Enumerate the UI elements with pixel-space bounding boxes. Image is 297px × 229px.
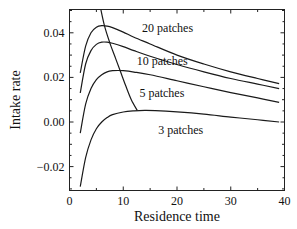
series-label-3-patches: 3 patches <box>158 123 203 137</box>
series-line-optimum-boundary <box>100 6 137 110</box>
series-label-10-patches: 10 patches <box>137 54 188 68</box>
series-label-20-patches: 20 patches <box>142 21 193 35</box>
x-tick-label: 40 <box>279 194 291 208</box>
intake-rate-chart: 010203040−0.020.000.020.04 20 patches10 … <box>0 0 297 229</box>
x-tick-label: 20 <box>171 194 183 208</box>
axis-ticks: 010203040−0.020.000.020.04 <box>37 10 291 208</box>
x-axis-title: Residence time <box>134 209 220 224</box>
x-tick-label: 10 <box>117 194 129 208</box>
y-axis-title: Intake rate <box>8 70 23 129</box>
y-tick-label: 0.02 <box>44 70 65 84</box>
x-tick-label: 30 <box>225 194 237 208</box>
series-line-3-patches <box>80 110 279 186</box>
y-tick-label: 0.00 <box>44 115 65 129</box>
y-tick-label: −0.02 <box>37 160 65 174</box>
y-tick-label: 0.04 <box>44 26 65 40</box>
series-label-5-patches: 5 patches <box>139 86 184 100</box>
x-tick-label: 0 <box>67 194 73 208</box>
